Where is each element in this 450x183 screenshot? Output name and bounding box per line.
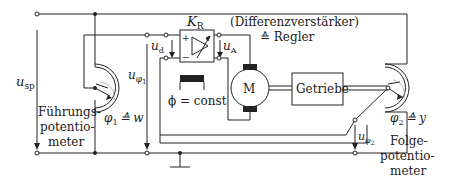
label-fuehrung-2: potentio-	[40, 120, 95, 134]
u-sp-arrowhead	[34, 143, 40, 150]
terminal	[217, 33, 221, 37]
label-fuehrung-1: Führungs-	[38, 105, 101, 119]
amp-plus: +	[182, 33, 190, 43]
junction-dot	[93, 86, 97, 90]
label-fuehrung-3: meter	[48, 135, 84, 149]
folge-wiper-wire	[355, 88, 388, 120]
label-u-phi2: uφ2	[358, 130, 375, 146]
label-u-sp: usp	[16, 74, 35, 91]
terminal	[386, 86, 390, 90]
label-phi-const: ϕ = const	[168, 94, 227, 108]
terminal	[353, 151, 357, 155]
label-phi2-y: φ2≙ y	[390, 111, 426, 127]
terminal	[35, 12, 39, 16]
u-phi2-arrowhead	[352, 143, 358, 150]
label-u-d: ud	[151, 39, 164, 55]
label-regler: ≙ Regler	[260, 30, 315, 44]
label-motor: M	[243, 82, 255, 96]
field-magnet	[180, 75, 204, 82]
terminal	[145, 151, 149, 155]
amp-minus: −	[182, 52, 190, 62]
terminal	[217, 56, 221, 60]
terminal	[164, 33, 168, 37]
label-u-phi1: uφ1	[128, 68, 147, 86]
motor-brush-top	[243, 64, 257, 70]
terminal	[35, 151, 39, 155]
motor-brush-bottom	[243, 106, 257, 112]
terminal	[353, 118, 357, 122]
label-phi1-w: φ1≙ w	[104, 111, 144, 127]
terminal	[164, 56, 168, 60]
label-u-a: uA	[223, 39, 237, 55]
junction-dot	[93, 12, 97, 16]
u-d-arrowhead	[169, 52, 175, 58]
label-folge-3: meter	[390, 164, 426, 178]
u-phi1-arrowhead	[144, 143, 150, 150]
label-folge-1: Folge-	[390, 134, 428, 148]
label-amp-description: (Differenzverstärker)	[230, 15, 359, 29]
control-circuit-diagram: usp uφ1 ud uA KR + − (Differenzverstärke…	[0, 0, 450, 183]
label-folge-2: potentio-	[380, 149, 435, 163]
terminal	[145, 33, 149, 37]
junction-dot	[93, 151, 97, 155]
label-k-r: KR	[186, 14, 204, 31]
junction-dot	[178, 151, 182, 155]
label-gearbox: Getriebe	[296, 82, 349, 96]
